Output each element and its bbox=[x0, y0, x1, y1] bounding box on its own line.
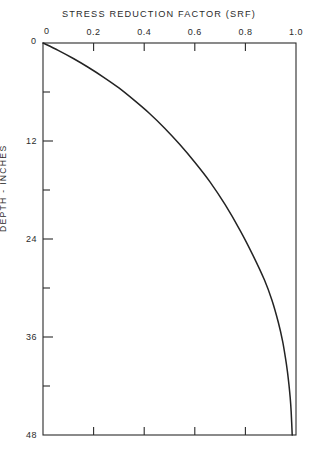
y-axis-title: DEPTH - INCHES bbox=[0, 145, 8, 232]
x-tick-label: 0.6 bbox=[188, 27, 202, 37]
x-tick-label: 1.0 bbox=[289, 27, 303, 37]
x-axis-ticks bbox=[94, 43, 246, 435]
figure-container: STRESS REDUCTION FACTOR (SRF) 0 0 DEPTH … bbox=[0, 0, 318, 454]
x-tick-label: 0.8 bbox=[238, 27, 252, 37]
y-axis-origin-label: 0 bbox=[31, 36, 36, 46]
data-curve bbox=[43, 43, 292, 435]
y-tick-label: 24 bbox=[0, 234, 37, 244]
chart-title: STRESS REDUCTION FACTOR (SRF) bbox=[0, 9, 318, 19]
y-axis-ticks bbox=[43, 92, 53, 386]
y-tick-label: 48 bbox=[0, 430, 37, 440]
y-tick-label: 12 bbox=[0, 136, 37, 146]
x-axis-origin-label: 0 bbox=[44, 26, 49, 36]
y-tick-label: 36 bbox=[0, 332, 37, 342]
x-tick-label: 0.4 bbox=[137, 27, 151, 37]
plot-area bbox=[0, 0, 318, 454]
x-tick-label: 0.2 bbox=[87, 27, 101, 37]
data-series-group bbox=[43, 43, 292, 435]
axis-frame bbox=[43, 43, 296, 435]
